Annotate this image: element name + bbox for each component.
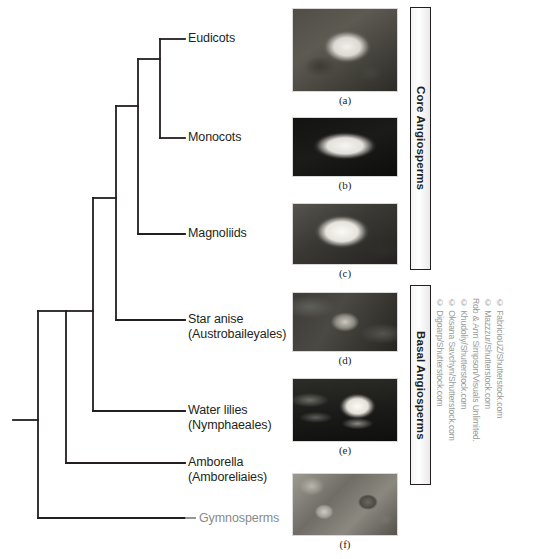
credit-line-3: © Khudoliy/Shutterstock.com xyxy=(458,298,469,409)
photo-caption-d: (d) xyxy=(292,354,398,366)
tip-sublabel-water-lilies: (Nymphaeales) xyxy=(188,418,271,433)
photo-block-e: (e) xyxy=(292,378,398,456)
credit-line-5: © Mazzzur/Shutterstock.com xyxy=(482,298,493,409)
tip-name-star-anise: Star anise xyxy=(188,312,286,327)
photo-a-image xyxy=(293,9,397,91)
clade-bar-basal-angiosperms: Basal Angiosperms xyxy=(410,285,431,485)
tip-name-gymnosperms: Gymnosperms xyxy=(199,511,279,525)
tip-name-eudicots: Eudicots xyxy=(188,31,235,45)
clade-bar-label-basal-angiosperms: Basal Angiosperms xyxy=(415,331,427,440)
clade-bar-core-angiosperms: Core Angiosperms xyxy=(410,7,431,270)
photo-block-a: (a) xyxy=(292,8,398,106)
photo-b xyxy=(292,117,398,177)
photo-block-b: (b) xyxy=(292,117,398,191)
clade-bar-label-core-angiosperms: Core Angiosperms xyxy=(415,86,427,190)
photo-credits: © Digoarp/Shutterstock.com © Oksana Savc… xyxy=(434,298,506,546)
tip-label-eudicots: Eudicots xyxy=(188,31,235,46)
photo-a xyxy=(292,8,398,92)
photo-caption-c: (c) xyxy=(292,267,398,279)
photo-c xyxy=(292,203,398,265)
tip-label-star-anise: Star anise (Austrobaileyales) xyxy=(188,312,286,342)
photo-caption-a: (a) xyxy=(292,94,398,106)
credit-line-1: © Digoarp/Shutterstock.com xyxy=(434,298,445,407)
tip-sublabel-amborella: (Amboreliaies) xyxy=(188,470,267,485)
credit-line-4: Rob & Ann Simpson/Visuals Unlimited. xyxy=(470,298,481,442)
credit-line-6: © FabricioUZ/Shutterstock.com xyxy=(494,298,505,418)
photo-block-d: (d) xyxy=(292,292,398,366)
photo-c-image xyxy=(293,204,397,264)
photo-d xyxy=(292,292,398,352)
photo-caption-b: (b) xyxy=(292,179,398,191)
tip-label-water-lilies: Water lilies (Nymphaeales) xyxy=(188,403,271,433)
photo-caption-e: (e) xyxy=(292,444,398,456)
photo-e xyxy=(292,378,398,442)
tip-name-amborella: Amborella xyxy=(188,455,267,470)
photo-f xyxy=(292,473,398,536)
credit-line-2: © Oksana Savchyn/Shutterstock.com xyxy=(446,298,457,441)
tip-name-magnoliids: Magnoliids xyxy=(188,226,247,240)
photo-block-c: (c) xyxy=(292,203,398,279)
photo-d-image xyxy=(293,293,397,351)
photo-b-image xyxy=(293,118,397,176)
tip-name-water-lilies: Water lilies xyxy=(188,403,271,418)
tip-label-amborella: Amborella (Amboreliaies) xyxy=(188,455,267,485)
tip-sublabel-star-anise: (Austrobaileyales) xyxy=(188,327,286,342)
angiosperm-phylogeny-figure: Eudicots Monocots Magnoliids Star anise … xyxy=(0,0,537,559)
photo-e-image xyxy=(293,379,397,441)
photo-f-image xyxy=(293,474,397,535)
tip-label-magnoliids: Magnoliids xyxy=(188,226,247,241)
tip-name-monocots: Monocots xyxy=(188,130,241,144)
tip-label-gymnosperms: Gymnosperms xyxy=(199,511,279,526)
tip-label-monocots: Monocots xyxy=(188,130,241,145)
photo-block-f: (f) xyxy=(292,473,398,550)
photo-caption-f: (f) xyxy=(292,538,398,550)
